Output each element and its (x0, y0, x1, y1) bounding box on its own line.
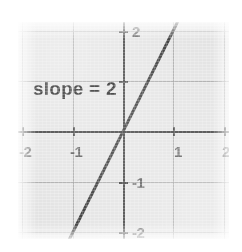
slope-graph-figure: -2 -1 1 2 2 -1 -2 slope = 2 (0, 0, 242, 252)
line-series-y-equals-2x (18, 22, 229, 239)
slope-annotation-label: slope = 2 (33, 79, 117, 98)
plot-panel: -2 -1 1 2 2 -1 -2 slope = 2 (18, 22, 229, 239)
